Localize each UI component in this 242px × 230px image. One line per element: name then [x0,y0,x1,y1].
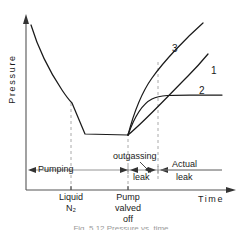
figure-caption: Fig. 5.12 Pressure vs. time [0,224,242,230]
figure-container: Pressure [0,0,242,230]
phase-label-outgassing: outgassing [113,151,157,161]
x-tick-label-liquid-n2-line2: N₂ [48,203,94,213]
phase-label-leak: leak [133,172,150,182]
curve-label-3: 3 [172,44,178,54]
x-tick-label-pump-valved-off-line2: valved [105,203,151,213]
x-axis-ticks [71,186,128,190]
event-gridlines [71,62,158,190]
curve-label-2: 2 [199,86,205,96]
x-axis-label: Time [198,194,224,204]
curve-2 [128,95,222,135]
phase-label-actual-line2: leak [176,172,193,182]
curve-3 [128,23,203,135]
x-tick-label-pump-valved-off-line3: off [105,214,151,224]
phase-label-pumping: Pumping [38,164,74,174]
curve-pumpdown [31,25,128,135]
y-axis [23,14,29,190]
curve-label-1: 1 [211,66,217,76]
phase-label-actual-line1: Actual [172,159,197,169]
x-tick-label-pump-valved-off-line1: Pump [105,192,151,202]
x-tick-label-liquid-n2-line1: Liquid [48,192,94,202]
